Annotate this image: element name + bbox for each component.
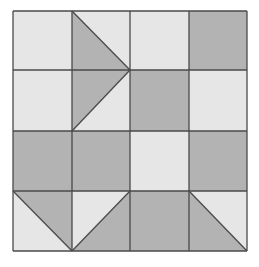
cell-square xyxy=(189,70,247,131)
quilt-cell-r2-c2 xyxy=(130,131,189,191)
quilt-cell-r1-c2 xyxy=(130,70,189,131)
cell-square xyxy=(189,131,247,191)
quilt-cell-r0-c2 xyxy=(130,11,189,70)
cell-square xyxy=(72,131,130,191)
quilt-cell-r2-c3 xyxy=(189,131,247,191)
cell-square xyxy=(130,131,189,191)
cell-square xyxy=(130,70,189,131)
cell-square xyxy=(130,11,189,70)
quilt-cell-r2-c0 xyxy=(13,131,72,191)
cell-square xyxy=(189,11,247,70)
quilt-block-diagram xyxy=(0,0,259,267)
cell-square xyxy=(130,191,189,251)
quilt-cell-r0-c3 xyxy=(189,11,247,70)
quilt-cell-r1-c3 xyxy=(189,70,247,131)
quilt-cell-r1-c0 xyxy=(13,70,72,131)
cell-square xyxy=(13,11,72,70)
quilt-cell-r3-c2 xyxy=(130,191,189,251)
quilt-cell-r0-c0 xyxy=(13,11,72,70)
cell-square xyxy=(13,131,72,191)
cell-square xyxy=(13,70,72,131)
quilt-cell-r2-c1 xyxy=(72,131,130,191)
